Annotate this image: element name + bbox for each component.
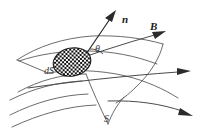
flux-diagram-svg: n B θ dS S — [0, 0, 208, 136]
field-vector-label: B — [149, 20, 157, 32]
angle-label: θ — [95, 43, 100, 54]
field-line-top-arrowhead — [152, 31, 166, 39]
field-line-bottom — [108, 101, 182, 111]
normal-vector-arrowhead — [105, 10, 116, 22]
surface-contour-2 — [10, 94, 88, 115]
normal-vector-label: n — [122, 13, 128, 25]
surface-label: S — [104, 113, 109, 124]
surface-band-lower — [18, 74, 86, 92]
field-line-middle-arrowhead — [177, 68, 191, 75]
flux-diagram-figure: n B θ dS S — [0, 0, 208, 136]
field-line-bottom-arrowhead — [178, 108, 193, 116]
area-element-label: dS — [44, 65, 54, 76]
area-element-patch — [51, 44, 94, 79]
